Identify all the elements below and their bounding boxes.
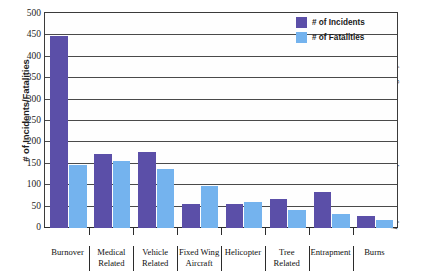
category-label: TreeRelated <box>265 247 309 275</box>
category-label-line: Helicopter <box>222 247 264 258</box>
category-label-line: Aircraft <box>178 258 220 269</box>
bar-incidents[interactable] <box>138 152 156 228</box>
bar-fatalities[interactable] <box>244 202 262 229</box>
bar-incidents[interactable] <box>357 216 375 228</box>
legend-swatch-icon <box>296 17 307 28</box>
category-tick <box>133 228 134 235</box>
category-tick <box>265 228 266 235</box>
category-label-line: Related <box>90 258 132 269</box>
category-label-line: Vehicle <box>134 247 176 258</box>
y-axis-tick-label: 100 <box>27 179 41 189</box>
category-tick <box>221 228 222 235</box>
bar-fatalities[interactable] <box>69 165 87 228</box>
category-label-line: Related <box>134 258 176 269</box>
category-label: MedicalRelated <box>89 247 133 275</box>
y-axis-tick-label: 200 <box>27 136 41 146</box>
plot-wrapper: 500450400350300250200150100500 <box>44 12 398 240</box>
category-label: Burns <box>353 247 397 275</box>
category-tick <box>309 228 310 235</box>
y-axis-tick-label: 450 <box>27 29 41 39</box>
y-axis-title: # of Incidents/Fatalities <box>20 21 31 201</box>
y-axis-tick-label: 50 <box>32 201 42 211</box>
y-axis-tick-label: 150 <box>27 158 41 168</box>
category-label: Entrapment <box>309 247 353 275</box>
y-axis-tick-label: 300 <box>27 94 41 104</box>
legend-item[interactable]: # of Fatalities <box>296 32 365 43</box>
bar-fatalities[interactable] <box>157 169 175 228</box>
bar-group <box>310 14 354 228</box>
bar-group <box>222 14 266 228</box>
y-axis-tick-label: 400 <box>27 51 41 61</box>
category-tick <box>177 228 178 235</box>
category-label: Burnover <box>46 247 90 275</box>
bar-incidents[interactable] <box>270 199 288 228</box>
bar-group <box>178 14 222 228</box>
category-label: Fixed WingAircraft <box>177 247 221 275</box>
y-axis-tick-label: 0 <box>36 222 41 232</box>
bar-group <box>354 14 398 228</box>
legend-label: # of Incidents <box>312 18 365 27</box>
bar-incidents[interactable] <box>226 204 244 228</box>
category-axis-ticks <box>46 228 397 235</box>
y-axis-tick-label: 500 <box>27 8 41 18</box>
category-label-line: Tree <box>266 247 308 258</box>
category-label-line: Entrapment <box>310 247 352 258</box>
y-axis-tick-label: 250 <box>27 115 41 125</box>
bar-group <box>90 14 134 228</box>
bar-incidents[interactable] <box>50 36 68 228</box>
category-label: VehicleRelated <box>133 247 177 275</box>
bar-incidents[interactable] <box>94 154 112 228</box>
bar-group <box>266 14 310 228</box>
y-axis-tick-label: 350 <box>27 72 41 82</box>
category-tick <box>89 228 90 235</box>
bar-chart: # of Incidents/Fatalities Information ta… <box>0 0 437 275</box>
legend-item[interactable]: # of Incidents <box>296 17 365 28</box>
plot-area: 500450400350300250200150100500 <box>44 12 398 228</box>
category-label: Helicopter <box>221 247 265 275</box>
category-tick <box>353 228 354 235</box>
bar-group <box>47 14 91 228</box>
legend-swatch-icon <box>296 32 307 43</box>
category-label-line: Medical <box>90 247 132 258</box>
bar-fatalities[interactable] <box>332 214 350 228</box>
bar-incidents[interactable] <box>182 204 200 228</box>
bar-incidents[interactable] <box>314 192 332 229</box>
bar-fatalities[interactable] <box>201 186 219 229</box>
category-label-line: Related <box>266 258 308 269</box>
chart-legend: # of Incidents# of Fatalities <box>296 17 365 43</box>
category-label-line: Burnover <box>47 247 89 258</box>
bar-group <box>134 14 178 228</box>
bar-fatalities[interactable] <box>113 161 131 228</box>
category-label-line: Burns <box>354 247 396 258</box>
category-label-line: Fixed Wing <box>178 247 220 258</box>
category-axis-labels: BurnoverMedicalRelatedVehicleRelatedFixe… <box>46 247 397 275</box>
legend-label: # of Fatalities <box>312 33 364 42</box>
bar-fatalities[interactable] <box>288 210 306 228</box>
bars-layer <box>47 14 398 228</box>
